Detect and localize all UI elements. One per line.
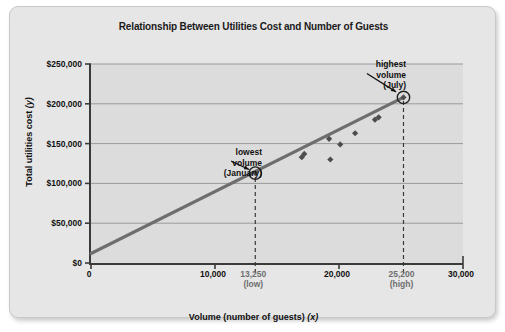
y-tick-label: $200,000 <box>24 99 82 109</box>
x-tick-label: 20,000 <box>324 269 350 279</box>
x-tick-label: 0 <box>87 269 92 279</box>
x-tick-value: 25,200 <box>388 269 414 279</box>
x-tick-label: 13,250(low) <box>240 269 266 289</box>
y-tick-label: $150,000 <box>24 139 82 149</box>
x-tick-value: 30,000 <box>448 269 474 279</box>
chart-card: Relationship Between Utilities Cost and … <box>9 6 496 318</box>
y-tick-label: $250,000 <box>24 59 82 69</box>
annotation-highest-line3: (July) <box>383 80 406 90</box>
data-point-marker <box>327 156 333 162</box>
x-axis-title: Volume (number of guests) (x) <box>10 312 497 322</box>
annotation-highest-volume: highest volume (July) <box>340 59 406 91</box>
x-tick-label: 25,200(high) <box>388 269 414 289</box>
annotation-highest-line2: volume <box>376 70 406 80</box>
dropdown-lines <box>255 97 403 273</box>
plot-svg <box>91 64 463 263</box>
y-axis-tick-labels: $0$50,000$100,000$150,000$200,000$250,00… <box>18 64 82 263</box>
y-tick-label: $100,000 <box>24 178 82 188</box>
x-tick-value: 13,250 <box>240 269 266 279</box>
data-point-marker <box>352 130 358 136</box>
x-axis-tick-labels: 010,00013,250(low)20,00025,200(high)30,0… <box>89 269 461 307</box>
x-tick-value: 10,000 <box>200 269 226 279</box>
x-tick-sublabel: (low) <box>240 279 266 289</box>
x-axis-ticks <box>91 256 463 269</box>
x-tick-value: 20,000 <box>324 269 350 279</box>
x-tick-label: 10,000 <box>200 269 226 279</box>
x-axis-variable: (x) <box>307 312 318 322</box>
annotation-lowest-line2: volume <box>232 158 262 168</box>
x-tick-value: 0 <box>87 269 92 279</box>
y-axis-ticks <box>85 64 91 263</box>
plot-area <box>89 64 463 265</box>
y-tick-label: $50,000 <box>24 218 82 228</box>
annotation-lowest-volume: lowest volume (January) <box>196 147 262 179</box>
annotation-highest-line1: highest <box>376 59 406 69</box>
x-tick-label: 30,000 <box>448 269 474 279</box>
x-tick-sublabel: (high) <box>388 279 414 289</box>
x-axis-title-text: Volume (number of guests) <box>189 312 307 322</box>
annotation-lowest-line1: lowest <box>236 147 262 157</box>
chart-title: Relationship Between Utilities Cost and … <box>10 21 497 32</box>
annotation-lowest-line3: (January) <box>224 168 262 178</box>
data-point-marker <box>337 141 343 147</box>
gridlines <box>91 64 463 223</box>
y-tick-label: $0 <box>24 258 82 268</box>
